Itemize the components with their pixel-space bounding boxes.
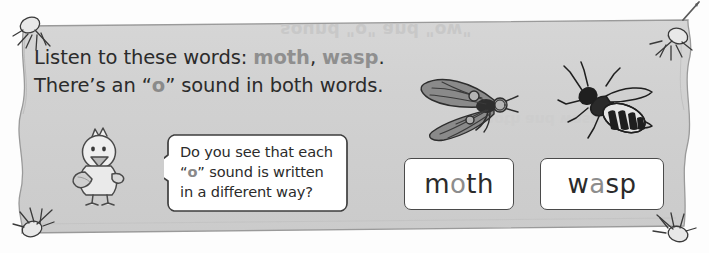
word-card-wasp[interactable]: wasp: [540, 158, 664, 210]
instruction-line-1-lead: Listen to these words:: [34, 46, 253, 69]
bubble-line-1: Do you see that each: [180, 142, 340, 162]
worksheet-page: sound "o" and "ow" moth and wasp Listen …: [0, 0, 709, 253]
word-wasp-prefix: w: [568, 169, 590, 199]
word-moth-prefix: m: [424, 169, 450, 199]
instruction-word-wasp: wasp: [322, 46, 378, 69]
instruction-line-2-lead: There’s an “: [34, 74, 152, 97]
instruction-word-moth: moth: [253, 46, 310, 69]
stray-pencil-mark: [669, 0, 703, 24]
word-wasp-suffix: sp: [606, 169, 637, 199]
word-card-wasp-text: wasp: [568, 169, 637, 199]
word-card-moth[interactable]: moth: [404, 158, 514, 210]
instruction-highlight-o: o: [152, 74, 165, 97]
word-card-moth-text: moth: [424, 169, 494, 199]
instruction-text: Listen to these words: moth, wasp. There…: [34, 44, 385, 99]
instruction-line-1: Listen to these words: moth, wasp.: [34, 44, 385, 72]
pushpin-bottom-left: [10, 196, 62, 244]
wasp-icon: [548, 56, 660, 154]
speech-bubble: Do you see that each “o” sound is writte…: [164, 133, 349, 213]
bubble-line-3: in a different way?: [180, 182, 340, 202]
moth-icon: [412, 62, 524, 150]
chick-icon: [62, 124, 140, 212]
bubble-line-2: “o” sound is written: [180, 162, 340, 182]
instruction-line-2: There’s an “o” sound in both words.: [34, 72, 385, 100]
word-moth-highlight: o: [450, 169, 466, 199]
instruction-line-1-separator: ,: [310, 46, 322, 69]
instruction-line-1-period: .: [378, 46, 384, 69]
word-wasp-highlight: a: [589, 169, 605, 199]
bubble-line-2-tail: ” sound is written: [197, 163, 323, 180]
speech-bubble-text: Do you see that each “o” sound is writte…: [180, 142, 340, 202]
instruction-line-2-tail: ” sound in both words.: [165, 74, 383, 97]
bubble-highlight-o: o: [187, 163, 197, 180]
word-moth-suffix: th: [466, 169, 493, 199]
